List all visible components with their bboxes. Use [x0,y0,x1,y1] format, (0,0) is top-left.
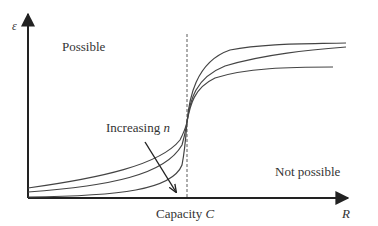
x-axis-label: R [342,207,350,220]
not-possible-region-label: Not possible [275,165,340,178]
possible-region-label: Possible [62,40,105,53]
capacity-diagram [0,0,378,226]
y-axis-label: ε [12,20,17,32]
capacity-label: Capacity C [156,207,214,220]
increasing-n-label: Increasing n [106,121,170,134]
increasing-n-arrow [145,142,176,192]
